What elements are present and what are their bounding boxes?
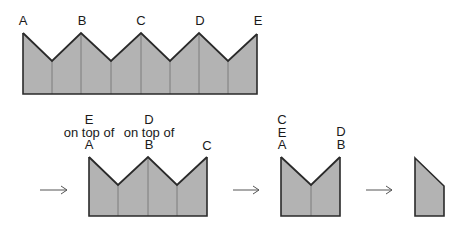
strip-stage-3 <box>281 157 340 216</box>
label-a: A <box>19 14 28 27</box>
label-stack-d-on-b: D on top of B <box>124 114 175 152</box>
label-stack-d-b: D B <box>336 126 345 151</box>
arrow-right-icon <box>40 186 67 194</box>
strip-stage-1 <box>23 33 257 94</box>
folding-diagram <box>0 0 462 226</box>
arrow-right-icon <box>366 186 392 194</box>
label-stack-c-e-a: C E A <box>277 114 286 152</box>
label-c: C <box>136 14 145 27</box>
label-b: B <box>78 14 87 27</box>
label-c-stage-2: C <box>202 139 211 152</box>
label-d: D <box>195 14 204 27</box>
label-stack-e-on-a: E on top of A <box>64 114 115 152</box>
label-e: E <box>254 14 263 27</box>
strip-stage-2 <box>89 157 207 216</box>
arrow-right-icon <box>233 186 259 194</box>
strip-stage-4 <box>415 158 444 216</box>
